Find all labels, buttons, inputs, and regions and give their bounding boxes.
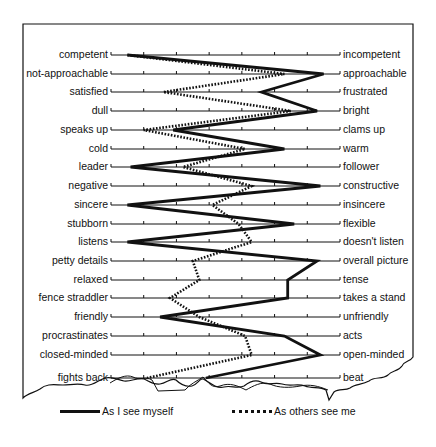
paper-frame <box>23 24 413 400</box>
right-pole-label: bright <box>343 104 369 116</box>
left-pole-label: fights back <box>58 371 109 383</box>
right-pole-label: unfriendly <box>343 310 389 322</box>
left-pole-label: closed-minded <box>40 348 108 360</box>
left-pole-label: fence straddler <box>39 291 109 303</box>
left-pole-label: stubborn <box>67 217 108 229</box>
right-pole-label: approachable <box>343 67 407 79</box>
dotted-line-swatch-icon <box>232 410 272 413</box>
right-pole-label: clams up <box>343 123 385 135</box>
left-pole-label: cold <box>89 142 108 154</box>
left-pole-label: relaxed <box>74 273 109 285</box>
left-pole-label: procrastinates <box>42 329 108 341</box>
left-pole-label: negative <box>68 179 108 191</box>
right-pole-label: follower <box>343 160 380 172</box>
right-pole-label: doesn't listen <box>343 235 404 247</box>
right-pole-label: flexible <box>343 217 376 229</box>
legend: As I see myself As others see me <box>0 405 436 425</box>
right-pole-label: tense <box>343 273 369 285</box>
legend-label-others: As others see me <box>274 405 356 417</box>
right-pole-label: takes a stand <box>343 291 406 303</box>
right-pole-label: insincere <box>343 198 385 210</box>
right-pole-label: beat <box>343 371 364 383</box>
left-pole-label: sincere <box>74 198 108 210</box>
right-pole-label: overall picture <box>343 254 409 266</box>
legend-item-others: As others see me <box>232 405 356 417</box>
profile-chart: competentincompetentnot-approachableappr… <box>0 0 436 447</box>
right-pole-label: warm <box>342 142 369 154</box>
right-pole-label: acts <box>343 329 362 341</box>
left-pole-label: satisfied <box>69 85 108 97</box>
legend-item-self: As I see myself <box>60 405 173 417</box>
left-pole-label: petty details <box>52 254 108 266</box>
left-pole-label: listens <box>78 235 108 247</box>
left-pole-label: not-approachable <box>26 67 108 79</box>
left-pole-label: leader <box>79 160 109 172</box>
legend-label-self: As I see myself <box>102 405 173 417</box>
right-pole-label: incompetent <box>343 48 400 60</box>
left-pole-label: competent <box>59 48 108 60</box>
solid-line-swatch-icon <box>60 410 100 413</box>
left-pole-label: friendly <box>74 310 109 322</box>
left-pole-label: speaks up <box>60 123 108 135</box>
right-pole-label: open-minded <box>343 348 404 360</box>
right-pole-label: constructive <box>343 179 399 191</box>
left-pole-label: dull <box>92 104 108 116</box>
right-pole-label: frustrated <box>343 85 388 97</box>
